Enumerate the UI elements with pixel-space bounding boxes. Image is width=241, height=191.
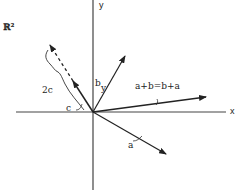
label-b-sub: y bbox=[100, 83, 107, 93]
vector-sum bbox=[93, 97, 206, 112]
vector-diagram: ℝ² y x a b y a+b=b+a c 2c bbox=[0, 0, 241, 191]
brace-2c bbox=[46, 50, 84, 110]
space-label: ℝ² bbox=[3, 22, 14, 32]
x-axis-label: x bbox=[230, 106, 235, 116]
y-axis-label: y bbox=[99, 0, 104, 10]
leader-c bbox=[76, 104, 82, 110]
label-2c: 2c bbox=[42, 85, 53, 95]
leader-a bbox=[133, 136, 142, 141]
vector-c bbox=[73, 81, 93, 112]
label-a: a bbox=[128, 140, 134, 150]
label-sum: a+b=b+a bbox=[135, 81, 181, 91]
vector-2c bbox=[50, 45, 73, 81]
label-c: c bbox=[66, 103, 71, 113]
